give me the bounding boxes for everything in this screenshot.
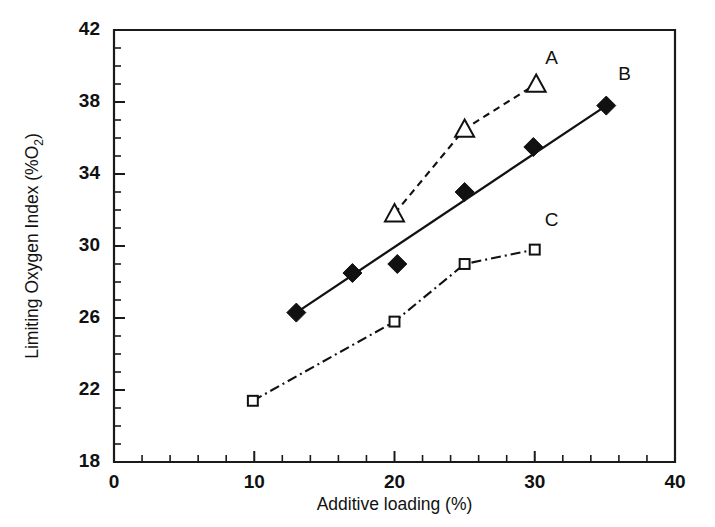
y-tick-label: 18	[79, 450, 100, 471]
x-tick-label: 40	[664, 471, 685, 492]
limiting-oxygen-index-chart: 18222630343842010203040Additive loading …	[0, 0, 715, 527]
series-b-marker-diamond[interactable]	[388, 255, 407, 274]
x-tick-label: 0	[109, 471, 120, 492]
series-c-marker-square[interactable]	[248, 396, 258, 406]
x-axis-title: Additive loading (%)	[317, 494, 473, 514]
series-b-line	[296, 106, 606, 313]
series-b	[287, 96, 616, 322]
y-axis-title: Limiting Oxygen Index (%O2)	[22, 133, 46, 359]
series-label-c: C	[545, 209, 559, 230]
series-c-marker-square[interactable]	[390, 317, 400, 327]
y-tick-label: 26	[79, 306, 100, 327]
series-a-marker-triangle[interactable]	[455, 120, 474, 137]
y-tick-label: 30	[79, 234, 100, 255]
series-c-marker-square[interactable]	[460, 259, 470, 269]
series-a-marker-triangle[interactable]	[385, 204, 404, 221]
x-tick-label: 20	[384, 471, 405, 492]
y-axis-title-tail: )	[22, 133, 42, 139]
series-label-a: A	[545, 47, 558, 68]
series-b-marker-diamond[interactable]	[524, 138, 543, 157]
series-a-marker-triangle[interactable]	[527, 75, 546, 92]
series-b-marker-diamond[interactable]	[455, 183, 474, 202]
y-tick-label: 42	[79, 18, 100, 39]
y-tick-label: 38	[79, 90, 100, 111]
series-c-marker-square[interactable]	[530, 245, 540, 255]
y-tick-label: 34	[79, 162, 101, 183]
series-layer	[248, 75, 616, 406]
y-tick-label: 22	[79, 378, 100, 399]
x-tick-label: 30	[524, 471, 545, 492]
series-label-b: B	[618, 63, 631, 84]
series-b-marker-diamond[interactable]	[597, 96, 616, 115]
y-axis-title-main: Limiting Oxygen Index (%O	[22, 146, 42, 359]
chart-page: 18222630343842010203040Additive loading …	[0, 0, 715, 527]
x-tick-label: 10	[244, 471, 265, 492]
series-b-marker-diamond[interactable]	[287, 303, 306, 322]
